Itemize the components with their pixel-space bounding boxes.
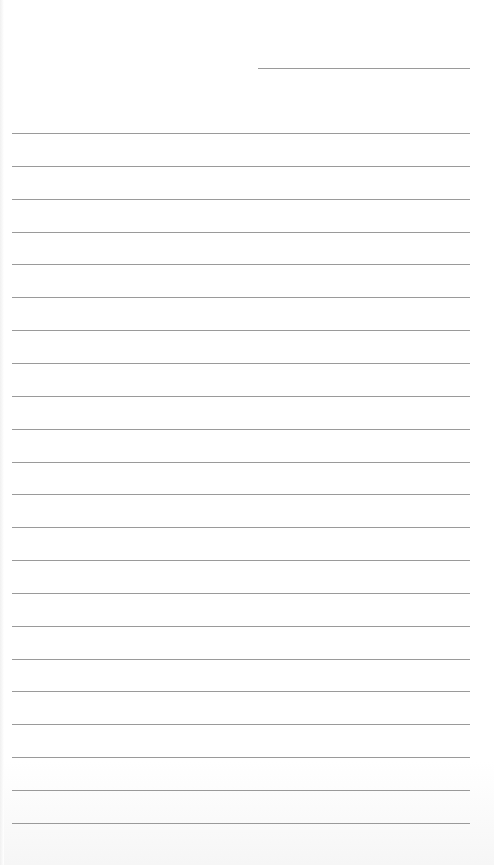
ruled-line (12, 396, 470, 397)
ruled-line (12, 593, 470, 594)
ruled-line (12, 823, 470, 824)
ruled-line (12, 560, 470, 561)
ruled-line (12, 659, 470, 660)
ruled-line (12, 724, 470, 725)
ruled-line (12, 264, 470, 265)
lined-paper-sheet (0, 0, 494, 865)
ruled-line (12, 790, 470, 791)
paper-edge-shadow (0, 0, 4, 865)
ruled-line (12, 757, 470, 758)
ruled-line (12, 133, 470, 134)
header-name-line (258, 68, 470, 69)
ruled-line (12, 199, 470, 200)
ruled-line (12, 166, 470, 167)
ruled-line (12, 330, 470, 331)
ruled-line (12, 232, 470, 233)
ruled-line (12, 462, 470, 463)
ruled-line (12, 429, 470, 430)
ruled-line (12, 494, 470, 495)
ruled-line (12, 527, 470, 528)
ruled-line (12, 297, 470, 298)
ruled-line (12, 626, 470, 627)
ruled-line (12, 691, 470, 692)
ruled-line (12, 363, 470, 364)
